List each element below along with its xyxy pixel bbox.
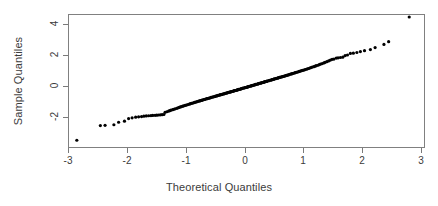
x-axis-tick [127,148,128,153]
x-axis-tick-label: -1 [174,155,198,166]
x-axis-tick-label: 1 [291,155,315,166]
x-axis-tick [303,148,304,153]
y-axis-tick-label: 2 [49,43,60,67]
x-axis-tick [186,148,187,153]
x-axis-tick-label: 3 [409,155,433,166]
y-axis-tick [63,86,68,87]
x-axis-tick-label: 0 [233,155,257,166]
plot-frame [68,14,425,148]
y-axis-tick-label: -2 [49,105,60,129]
y-axis-tick-label: 4 [49,12,60,36]
x-axis-tick [68,148,69,153]
x-axis-tick [362,148,363,153]
y-axis-tick-label: 0 [49,74,60,98]
x-axis-tick [245,148,246,153]
y-axis-tick [63,117,68,118]
qq-plot-figure: Sample Quantiles Theoretical Quantiles -… [0,0,438,206]
y-axis-tick [63,24,68,25]
x-axis-tick [421,148,422,153]
x-axis-label: Theoretical Quantiles [0,181,438,193]
x-axis-tick-label: -3 [56,155,80,166]
x-axis-tick-label: 2 [350,155,374,166]
x-axis-tick-label: -2 [115,155,139,166]
y-axis-label: Sample Quantiles [12,37,24,125]
y-axis-label-container: Sample Quantiles [4,14,32,148]
y-axis-tick [63,55,68,56]
